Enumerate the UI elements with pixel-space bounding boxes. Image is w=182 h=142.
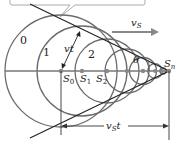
- label-vst: vSt: [106, 120, 121, 133]
- vt-arrowhead-bottom: [62, 63, 67, 69]
- vst-arrowhead-right: [163, 124, 169, 129]
- callout-box: [10, 0, 145, 17]
- label-s1: S1: [80, 73, 91, 86]
- label-theta: θ: [133, 54, 139, 65]
- shock-wave-diagram: 0 1 2 vt vS θ S0 S1 S2 Sn vSt: [0, 0, 182, 142]
- label-wavefront-0: 0: [20, 34, 27, 47]
- label-vt: vt: [64, 43, 75, 54]
- label-wavefront-2: 2: [88, 48, 95, 61]
- label-vs: vS: [131, 17, 142, 30]
- vt-arrowhead-top: [76, 31, 81, 37]
- vst-arrowhead-left: [61, 124, 67, 129]
- label-wavefront-1: 1: [43, 46, 50, 59]
- velocity-arrowhead: [151, 28, 159, 36]
- label-s0: S0: [63, 73, 74, 86]
